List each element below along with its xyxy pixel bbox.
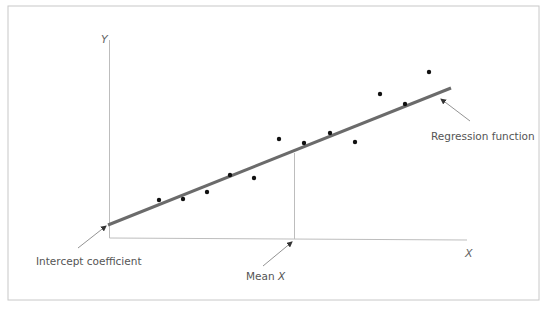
data-point [378,92,382,96]
data-point [277,137,281,141]
regression-function-label: Regression function [431,130,535,142]
data-point [205,190,209,194]
data-point [252,176,256,180]
data-point [228,173,232,177]
data-point [157,198,161,202]
data-point [328,131,332,135]
mean-x-label: Mean X [246,270,286,282]
data-point [403,102,407,106]
data-point [427,70,431,74]
x-axis-label: X [464,247,473,260]
mean-x-label-prefix: Mean [246,270,278,282]
data-point [181,197,185,201]
regression-diagram: Y X Regression function Intercept coeffi… [0,0,545,309]
mean-x-label-var: X [277,270,286,282]
intercept-coefficient-label: Intercept coefficient [36,255,142,267]
data-point [353,140,357,144]
data-point [302,141,306,145]
